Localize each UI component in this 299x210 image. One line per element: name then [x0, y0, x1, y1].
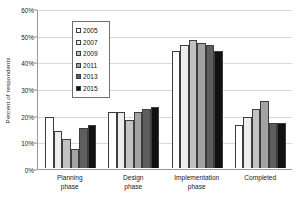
x-axis-tick-labels: PlanningphaseDesignphaseImplementationph…	[38, 174, 292, 191]
bar[interactable]	[277, 123, 286, 168]
y-axis-tick-label: 50%	[21, 33, 34, 40]
bar[interactable]	[252, 109, 261, 168]
x-axis-tick-label-line: phase	[38, 183, 102, 192]
y-axis-title-text: Percent of respondents	[4, 57, 11, 123]
x-axis-tick-label: Designphase	[102, 174, 166, 191]
legend-swatch-icon	[76, 86, 81, 91]
legend-item-label: 2013	[83, 73, 98, 80]
legend-swatch-icon	[76, 40, 81, 45]
bar[interactable]	[269, 123, 278, 168]
bar[interactable]	[243, 117, 252, 168]
y-axis-tick-label: 40%	[21, 60, 34, 67]
x-axis-tick-label-line: phase	[102, 183, 166, 192]
bar[interactable]	[125, 120, 134, 168]
y-axis-tick-label: 10%	[21, 140, 34, 147]
legend-swatch-icon	[76, 51, 81, 56]
legend-item-label: 2005	[83, 27, 98, 34]
y-axis-tick-label: 30%	[21, 87, 34, 94]
bar[interactable]	[54, 131, 63, 168]
bar[interactable]	[79, 128, 88, 168]
bar[interactable]	[142, 109, 151, 168]
y-axis-tick-label: 60%	[21, 7, 34, 14]
x-axis-tick-label-line: phase	[165, 183, 229, 192]
x-axis-tick-label: Implementationphase	[165, 174, 229, 191]
legend-item[interactable]: 2009	[76, 48, 106, 60]
legend-item[interactable]: 2013	[76, 71, 106, 83]
bar-group	[102, 10, 165, 168]
legend-item[interactable]: 2005	[76, 25, 106, 37]
bar-chart: Percent of respondents 0%10%20%30%40%50%…	[0, 0, 299, 210]
bar[interactable]	[151, 107, 160, 168]
x-axis-tick-label-line: Completed	[229, 174, 293, 183]
bar[interactable]	[180, 45, 189, 168]
legend-swatch-icon	[76, 28, 81, 33]
legend-item-label: 2009	[83, 50, 98, 57]
y-axis-title: Percent of respondents	[0, 0, 14, 180]
bar[interactable]	[62, 139, 71, 168]
x-axis-tick-label-line: Planning	[38, 174, 102, 183]
bar-group	[229, 10, 292, 168]
bar[interactable]	[214, 51, 223, 168]
legend-swatch-icon	[76, 63, 81, 68]
legend-item-label: 2015	[83, 85, 98, 92]
legend-swatch-icon	[76, 74, 81, 79]
x-axis-tick-label: Completed	[229, 174, 293, 191]
y-axis-tick-label: 20%	[21, 113, 34, 120]
bar[interactable]	[134, 112, 143, 168]
legend-item[interactable]: 2015	[76, 83, 106, 95]
x-axis-tick-label-line: Design	[102, 174, 166, 183]
bar[interactable]	[88, 125, 97, 168]
legend-item-label: 2011	[83, 62, 97, 69]
legend-item[interactable]: 2007	[76, 37, 106, 49]
bar[interactable]	[71, 149, 80, 168]
bar[interactable]	[235, 125, 244, 168]
bar[interactable]	[189, 40, 198, 168]
legend: 200520072009201120132015	[72, 21, 110, 98]
x-axis-tick-label: Planningphase	[38, 174, 102, 191]
x-axis-tick-label-line: Implementation	[165, 174, 229, 183]
y-axis-tick-labels: 0%10%20%30%40%50%60%	[13, 10, 37, 170]
bar[interactable]	[197, 43, 206, 168]
bar[interactable]	[45, 117, 54, 168]
bar[interactable]	[108, 112, 117, 168]
bar[interactable]	[206, 45, 215, 168]
legend-item-label: 2007	[83, 39, 98, 46]
bar-group	[166, 10, 229, 168]
bar[interactable]	[117, 112, 126, 168]
bar[interactable]	[172, 51, 181, 168]
bar[interactable]	[260, 101, 269, 168]
legend-item[interactable]: 2011	[76, 60, 106, 72]
y-axis-tick-label: 0%	[25, 167, 34, 174]
